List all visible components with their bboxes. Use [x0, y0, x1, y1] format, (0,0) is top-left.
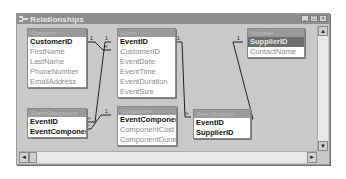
vertical-scrollbar[interactable]: ▲ ▼	[317, 26, 328, 151]
field-eventid[interactable]: EventID	[194, 118, 250, 128]
scroll-down-button[interactable]: ▼	[318, 141, 328, 151]
relationships-canvas[interactable]: 1 ∞ 1 ∞ 1 ∞ 1 ∞ 1 ∞ Customer CustomerID …	[19, 26, 317, 151]
field-eventsize[interactable]: EventSize	[118, 87, 175, 97]
field-firstname[interactable]: FirstName	[28, 47, 86, 57]
table-title[interactable]: EventComponent	[28, 109, 86, 117]
window-title: Relationships	[30, 15, 84, 24]
one-marker: 1	[177, 35, 180, 41]
field-componentcost[interactable]: ComponentCost	[118, 125, 176, 135]
many-marker: ∞	[87, 115, 91, 121]
scroll-up-button[interactable]: ▲	[318, 26, 328, 36]
minimize-button[interactable]: _	[301, 15, 309, 22]
field-supplierid[interactable]: SupplierID	[248, 37, 304, 47]
one-marker: 1	[105, 35, 108, 41]
scroll-thumb[interactable]	[29, 152, 37, 163]
relationships-window: Relationships _ □ ×	[16, 13, 330, 165]
scroll-right-button[interactable]: ►	[307, 152, 317, 163]
relationships-icon	[19, 16, 28, 23]
table-supplier[interactable]: Supplier SupplierID ContactName	[247, 28, 305, 58]
table-title[interactable]: Customer	[28, 29, 86, 37]
window-titlebar[interactable]: Relationships _ □ ×	[17, 14, 329, 24]
table-title[interactable]: EventSupplier	[194, 110, 250, 118]
field-componentduration[interactable]: ComponentDuratio	[118, 135, 176, 145]
many-marker: ∞	[185, 110, 189, 116]
scroll-left-button[interactable]: ◄	[19, 152, 29, 163]
table-component[interactable]: Component EventComponent ComponentCost C…	[117, 106, 177, 146]
field-customerid[interactable]: CustomerID	[28, 37, 86, 47]
field-eventcomponent[interactable]: EventComponent	[118, 115, 176, 125]
field-lastname[interactable]: LastName	[28, 57, 86, 67]
field-supplierid[interactable]: SupplierID	[194, 128, 250, 138]
field-emailaddress[interactable]: EmailAddress	[28, 77, 86, 87]
many-marker: ∞	[104, 43, 108, 49]
field-eventdate[interactable]: EventDate	[118, 57, 175, 67]
one-marker: 1	[90, 35, 93, 41]
table-title[interactable]: Supplier	[248, 29, 304, 37]
field-eventduration[interactable]: EventDuration	[118, 77, 175, 87]
maximize-button[interactable]: □	[310, 15, 318, 22]
field-customerid[interactable]: CustomerID	[118, 47, 175, 57]
field-eventtime[interactable]: EventTime	[118, 67, 175, 77]
horizontal-scrollbar[interactable]: ◄ ►	[19, 151, 317, 163]
field-eventcomponent[interactable]: EventComponent	[28, 127, 86, 137]
table-customer[interactable]: Customer CustomerID FirstName LastName P…	[27, 28, 87, 88]
field-phonenumber[interactable]: PhoneNumber	[28, 67, 86, 77]
table-title[interactable]: Component	[118, 107, 176, 115]
field-contactname[interactable]: ContactName	[248, 47, 304, 57]
table-event[interactable]: Event EventID CustomerID EventDate Event…	[117, 28, 176, 98]
field-eventid[interactable]: EventID	[118, 37, 175, 47]
one-marker: 1	[105, 108, 108, 114]
one-marker: 1	[237, 35, 240, 41]
resize-grip[interactable]	[318, 152, 328, 163]
field-eventid[interactable]: EventID	[28, 117, 86, 127]
table-eventsupplier[interactable]: EventSupplier EventID SupplierID	[193, 109, 251, 139]
table-title[interactable]: Event	[118, 29, 175, 37]
close-button[interactable]: ×	[319, 15, 327, 22]
table-eventcomponent[interactable]: EventComponent EventID EventComponent	[27, 108, 87, 138]
